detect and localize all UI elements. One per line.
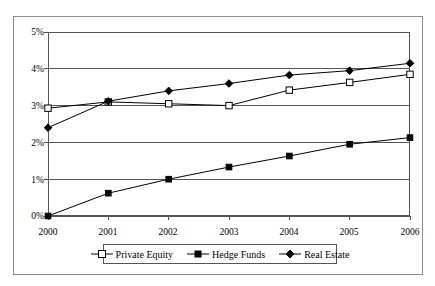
data-point-hedge-funds-2004	[287, 153, 293, 159]
data-point-private-equity-2003	[226, 102, 232, 108]
data-point-real-estate-2000	[44, 124, 52, 132]
data-point-private-equity-2002	[165, 101, 171, 107]
series-markers	[44, 59, 414, 218]
data-point-hedge-funds-2000	[45, 213, 51, 219]
legend-label-private-equity: Private Equity	[116, 249, 174, 260]
legend-label-hedge-funds: Hedge Funds	[212, 249, 265, 260]
data-point-private-equity-2004	[286, 87, 292, 93]
series-line-hedge-funds	[48, 138, 410, 216]
series-line-real-estate	[48, 63, 410, 127]
data-point-hedge-funds-2006	[407, 135, 413, 141]
open-square-marker-icon	[91, 249, 113, 259]
data-point-hedge-funds-2005	[347, 141, 353, 147]
chart-legend: Private Equity Hedge Funds Real Estate	[103, 244, 337, 264]
chart-figure: 5% 4% 3% 2% 1% 0% 2000 2001 2002 2003 20…	[0, 0, 435, 286]
legend-item-real-estate: Real Estate	[279, 249, 349, 260]
data-point-private-equity-2006	[407, 71, 413, 77]
data-point-hedge-funds-2003	[226, 164, 232, 170]
data-point-hedge-funds-2001	[106, 190, 112, 196]
legend-item-private-equity: Private Equity	[91, 249, 174, 260]
legend-item-hedge-funds: Hedge Funds	[187, 249, 265, 260]
data-point-private-equity-2005	[346, 79, 352, 85]
gridlines	[48, 32, 410, 216]
data-point-real-estate-2004	[286, 71, 294, 79]
data-point-real-estate-2005	[346, 67, 354, 75]
data-point-real-estate-2006	[406, 59, 414, 67]
filled-square-marker-icon	[187, 249, 209, 259]
data-point-real-estate-2002	[165, 87, 173, 95]
data-point-real-estate-2003	[225, 80, 233, 88]
data-point-hedge-funds-2002	[166, 176, 172, 182]
legend-label-real-estate: Real Estate	[304, 249, 349, 260]
data-point-private-equity-2000	[45, 105, 51, 111]
filled-diamond-marker-icon	[279, 249, 301, 259]
x-tick-marks	[48, 216, 410, 220]
